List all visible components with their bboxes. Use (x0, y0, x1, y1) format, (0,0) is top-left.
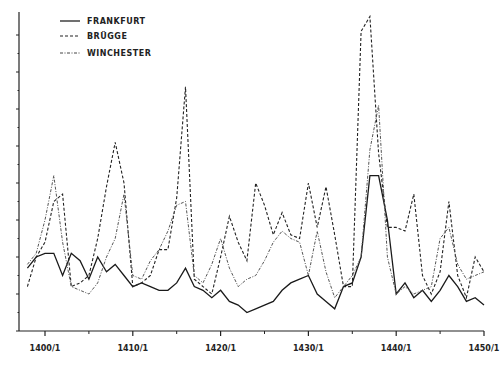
series-line-brgge (27, 17, 484, 298)
legend-item-brugge: BRÜGGE (60, 31, 127, 41)
line-chart: 1400/11410/11420/11430/11440/11450/1 FRA… (0, 0, 503, 366)
legend-label-frankfurt: FRANKFURT (87, 17, 145, 26)
x-axis: 1400/11410/11420/11430/11440/11450/1 (19, 331, 500, 353)
plot-lines (27, 17, 484, 313)
series-line-winchester (27, 105, 484, 297)
y-axis (16, 12, 19, 331)
x-tick-label: 1400/1 (30, 344, 61, 353)
legend-label-winchester: WINCHESTER (87, 49, 151, 58)
legend-label-brugge: BRÜGGE (87, 31, 127, 41)
x-tick-label: 1450/1 (469, 344, 500, 353)
legend-item-frankfurt: FRANKFURT (60, 17, 145, 26)
x-tick-label: 1420/1 (205, 344, 236, 353)
x-tick-label: 1410/1 (117, 344, 148, 353)
x-tick-label: 1430/1 (293, 344, 324, 353)
x-tick-label: 1440/1 (381, 344, 412, 353)
legend-item-winchester: WINCHESTER (60, 49, 151, 58)
legend: FRANKFURT BRÜGGE WINCHESTER (60, 17, 151, 58)
